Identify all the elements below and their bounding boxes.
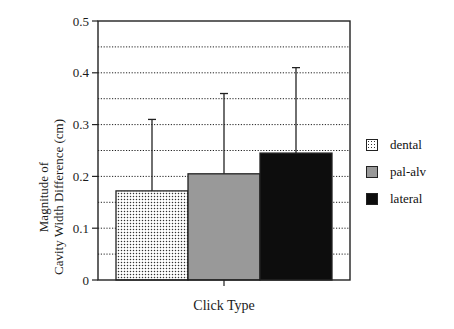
- svg-text:Magnitude of: Magnitude of: [36, 161, 51, 232]
- legend-item-pal-alv: pal-alv: [366, 164, 426, 180]
- bar-pal-alv: [188, 174, 260, 280]
- dental-swatch-icon: [366, 139, 378, 151]
- y-axis-ticks: 00.10.20.30.40.5: [73, 14, 98, 288]
- y-tick-label: 0.2: [73, 169, 89, 184]
- svg-text:Cavity Width Difference (cm): Cavity Width Difference (cm): [51, 119, 66, 275]
- y-tick-label: 0: [83, 273, 90, 288]
- legend-label: lateral: [390, 191, 422, 207]
- bar-dental: [116, 191, 188, 280]
- legend-label: pal-alv: [390, 164, 426, 180]
- legend-item-dental: dental: [366, 137, 422, 153]
- y-tick-label: 0.5: [73, 14, 89, 29]
- y-tick-label: 0.4: [73, 65, 90, 80]
- bar-lateral: [260, 153, 332, 280]
- y-axis-label: Magnitude of Cavity Width Difference (cm…: [36, 119, 66, 275]
- legend-item-lateral: lateral: [366, 191, 422, 207]
- x-axis-label: Click Type: [193, 298, 254, 313]
- lateral-swatch-icon: [366, 193, 378, 205]
- y-tick-label: 0.1: [73, 221, 89, 236]
- pal-alv-swatch-icon: [366, 166, 378, 178]
- y-tick-label: 0.3: [73, 117, 89, 132]
- bars: [116, 68, 332, 280]
- legend-label: dental: [390, 137, 422, 153]
